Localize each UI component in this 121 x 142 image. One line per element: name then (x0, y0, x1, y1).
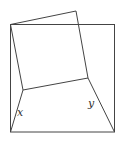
tilted-square (11, 11, 89, 90)
label-y: y (87, 97, 95, 110)
geometry-diagram: x y (0, 0, 121, 142)
label-x: x (17, 106, 24, 119)
outer-square (11, 25, 115, 133)
